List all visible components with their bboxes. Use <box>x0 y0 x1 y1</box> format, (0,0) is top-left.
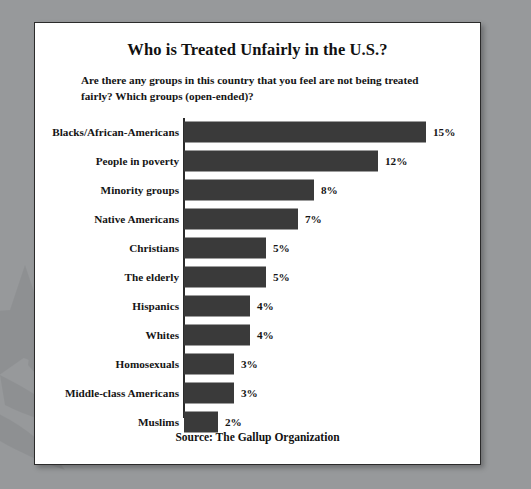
chart-panel: Who is Treated Unfairly in the U.S.? Are… <box>34 22 481 465</box>
bar <box>184 296 250 317</box>
category-label: Hispanics <box>35 300 179 312</box>
bar <box>184 354 234 375</box>
bar-row: Muslims 2% <box>35 408 480 437</box>
value-label: 12% <box>385 155 407 167</box>
category-label: Native Americans <box>35 213 179 225</box>
bar-row: Whites 4% <box>35 321 480 350</box>
bar-row: Minority groups 8% <box>35 176 480 205</box>
category-label: People in poverty <box>35 155 179 167</box>
category-label: The elderly <box>35 271 179 283</box>
bar <box>184 209 298 230</box>
bar-row: Blacks/African-Americans 15% <box>35 118 480 147</box>
category-label: Christians <box>35 242 179 254</box>
category-label: Minority groups <box>35 184 179 196</box>
bar-row: Hispanics 4% <box>35 292 480 321</box>
chart-title: Who is Treated Unfairly in the U.S.? <box>35 40 480 60</box>
value-label: 5% <box>273 271 290 283</box>
bar-row: Native Americans 7% <box>35 205 480 234</box>
bar-row: Homosexuals 3% <box>35 350 480 379</box>
value-label: 2% <box>225 416 242 428</box>
chart-subtitle: Are there any groups in this country tha… <box>81 73 431 105</box>
value-label: 4% <box>257 300 274 312</box>
category-label: Blacks/African-Americans <box>35 126 179 138</box>
bar-row: People in poverty 12% <box>35 147 480 176</box>
bar <box>184 412 218 433</box>
bar-row: Middle-class Americans 3% <box>35 379 480 408</box>
bar-row: The elderly 5% <box>35 263 480 292</box>
bar-row: Christians 5% <box>35 234 480 263</box>
bar <box>184 267 266 288</box>
value-label: 7% <box>305 213 322 225</box>
category-label: Whites <box>35 329 179 341</box>
bar <box>184 180 314 201</box>
value-label: 4% <box>257 329 274 341</box>
category-label: Homosexuals <box>35 358 179 370</box>
bar <box>184 151 378 172</box>
bar <box>184 238 266 259</box>
category-label: Middle-class Americans <box>35 387 179 399</box>
value-label: 5% <box>273 242 290 254</box>
bar <box>184 383 234 404</box>
value-label: 8% <box>321 184 338 196</box>
bar <box>184 325 250 346</box>
bar <box>184 122 426 143</box>
value-label: 15% <box>433 126 455 138</box>
category-label: Muslims <box>35 416 179 428</box>
value-label: 3% <box>241 358 258 370</box>
value-label: 3% <box>241 387 258 399</box>
bar-chart-plot: Blacks/African-Americans 15% People in p… <box>35 118 480 418</box>
